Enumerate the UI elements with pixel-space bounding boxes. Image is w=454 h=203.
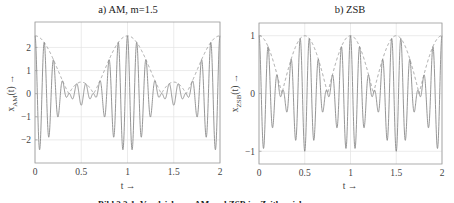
x-axis-label: t →	[121, 181, 136, 191]
y-tick-label: 2	[26, 43, 31, 53]
y-axis-label-tail: (t) →	[6, 75, 17, 96]
y-axis-label-tail: (t) →	[230, 74, 241, 95]
panel-am: a) AM, m=1.5 −2−1012 00.511.52 t → xAM(t…	[6, 4, 223, 191]
figure-caption: Bild 2.2-1: Vergleich von AM und ZSB im …	[98, 199, 304, 203]
y-tick-label: 0	[250, 89, 255, 99]
x-axis-label: t →	[343, 181, 358, 191]
x-tick-label: 2	[440, 168, 445, 178]
y-axis-label: xZSB(t) →	[230, 74, 243, 112]
y-axis-label: xAM(t) →	[6, 75, 19, 112]
y-tick-label: 1	[250, 31, 255, 41]
grid-lines	[35, 22, 220, 163]
x-tick-label: 2	[218, 167, 223, 177]
y-tick-label: −2	[21, 135, 31, 145]
x-tick-label: 1.5	[390, 168, 402, 178]
x-tick-label: 0.5	[75, 167, 87, 177]
panel-title: b) ZSB	[335, 4, 366, 16]
x-tick-label: 0	[257, 168, 262, 178]
panel-title: a) AM, m=1.5	[98, 4, 158, 16]
panel-zsb: b) ZSB −101 00.511.52 t → xZSB(t) →	[230, 4, 445, 191]
y-axis-label-sub: ZSB	[235, 94, 243, 107]
y-tick-label: 0	[26, 89, 31, 99]
y-tick-label: −1	[21, 112, 31, 122]
x-tick-label: 1	[125, 167, 130, 177]
x-tick-label: 0.5	[299, 168, 311, 178]
x-tick-labels: 00.511.52	[257, 168, 445, 178]
figure: a) AM, m=1.5 −2−1012 00.511.52 t → xAM(t…	[0, 0, 454, 203]
grid-lines	[259, 23, 442, 164]
x-tick-label: 0	[33, 167, 38, 177]
x-tick-labels: 00.511.52	[33, 167, 223, 177]
y-tick-label: −1	[245, 147, 255, 157]
y-axis-label-sub: AM	[11, 95, 19, 107]
x-tick-label: 1.5	[168, 167, 180, 177]
y-tick-label: 1	[26, 66, 31, 76]
x-tick-label: 1	[348, 168, 353, 178]
